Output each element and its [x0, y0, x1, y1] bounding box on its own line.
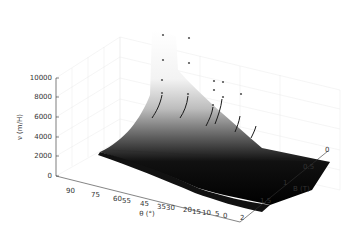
x-tick-label: 35: [157, 203, 166, 211]
y-axis-title: B (T): [293, 185, 310, 193]
y-tick-label: 2: [240, 214, 244, 222]
y-tick-label: 1: [283, 179, 287, 187]
z-tick-label: 0: [48, 172, 52, 180]
x-tick-label: 30: [166, 204, 175, 212]
x-tick-label: 60: [113, 195, 122, 203]
x-tick-label: 10: [202, 209, 211, 217]
x-tick-label: 45: [140, 200, 149, 208]
x-tick-label: 15: [192, 208, 201, 216]
y-tick-label: 0.5: [303, 163, 314, 171]
z-tick-label: 4000: [34, 133, 52, 141]
z-axis-title: ν (m/H): [16, 114, 24, 140]
x-tick-label: 20: [183, 206, 192, 214]
y-tick-label: 0: [325, 146, 329, 154]
z-axis-ticks: 10000 8000 6000 4000 2000 0: [30, 74, 59, 180]
x-tick-label: 55: [122, 197, 131, 205]
z-tick-label: 2000: [34, 152, 52, 160]
x-axis-title: θ (°): [139, 210, 155, 218]
x-tick-label: 75: [91, 191, 100, 199]
z-tick-label: 10000: [30, 74, 52, 82]
z-tick-label: 6000: [34, 113, 52, 121]
x-tick-label: 0: [223, 212, 227, 220]
x-tick-label: 90: [66, 187, 75, 195]
surface-plot: 10000 8000 6000 4000 2000 0 ν (m/H) 90 7…: [0, 0, 347, 234]
x-tick-label: 5: [215, 210, 219, 218]
y-tick-label: 1.5: [260, 197, 271, 205]
z-tick-label: 8000: [34, 93, 52, 101]
